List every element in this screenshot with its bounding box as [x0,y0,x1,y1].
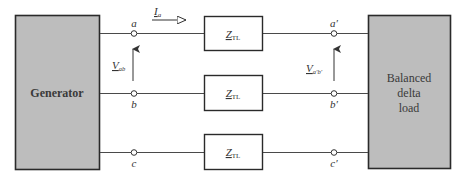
three-phase-diagram: Generator Balanced delta load a a′ ZTL b… [0,0,457,178]
generator-block: Generator [16,16,100,170]
node-b-prime-terminal [331,91,337,97]
load-label-line-3: load [399,101,420,115]
node-b-terminal [131,91,137,97]
line-c: c c′ ZTL [100,135,368,170]
voltage-vab-annotation: Vab [112,49,133,81]
node-a-terminal [131,31,137,37]
generator-label: Generator [30,86,84,100]
node-b-prime-label: b′ [330,98,339,110]
node-a-label: a [131,17,137,29]
line-b: b b′ ZTL [100,76,368,111]
voltage-vab-label: Vab [112,59,126,72]
node-a-prime-terminal [331,31,337,37]
voltage-vapbp-annotation: Va′b′ [306,49,334,81]
node-c-terminal [131,150,137,156]
node-c-prime-label: c′ [330,157,338,169]
current-ia-label: Ia [153,5,162,19]
node-c-prime-terminal [331,150,337,156]
balanced-delta-load-block: Balanced delta load [369,16,451,169]
node-c-label: c [132,157,137,169]
node-a-prime-label: a′ [330,17,339,29]
voltage-vapbp-label: Va′b′ [306,62,323,75]
line-a: a a′ ZTL [100,17,368,51]
current-ia-annotation: Ia [152,5,186,20]
load-label-line-1: Balanced [387,71,432,85]
node-b-label: b [131,98,137,110]
load-label-line-2: delta [397,86,421,100]
